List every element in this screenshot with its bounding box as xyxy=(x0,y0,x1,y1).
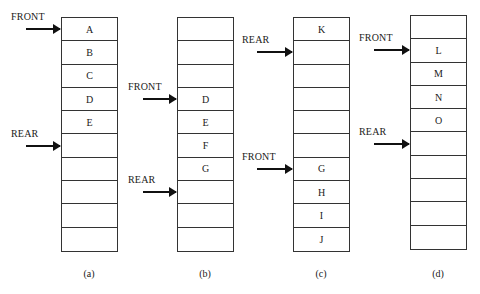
queue-cell: A xyxy=(62,18,117,41)
rear-arrow-icon xyxy=(257,51,292,53)
queue-cell xyxy=(178,228,233,251)
queue-caption: (d) xyxy=(418,268,458,279)
queue-cell: K xyxy=(294,18,349,41)
queue-cell: N xyxy=(411,86,466,109)
queue-cell xyxy=(178,65,233,88)
queue-cell xyxy=(62,181,117,204)
front-pointer-label: FRONT xyxy=(128,81,162,92)
queue-cell: C xyxy=(62,65,117,88)
front-arrow-icon xyxy=(374,49,409,51)
queue-cell xyxy=(411,156,466,179)
queue-cell xyxy=(411,179,466,202)
rear-pointer-label: REAR xyxy=(11,128,38,139)
queue-d: LMNO xyxy=(410,15,467,250)
queue-cell xyxy=(62,228,117,251)
front-arrow-icon xyxy=(257,168,292,170)
rear-pointer-label: REAR xyxy=(359,126,386,137)
queue-cell xyxy=(411,202,466,225)
queue-cell xyxy=(294,41,349,64)
front-pointer-label: FRONT xyxy=(359,32,393,43)
queue-cell xyxy=(294,111,349,134)
queue-cell xyxy=(178,181,233,204)
front-pointer-label: FRONT xyxy=(242,151,276,162)
rear-arrow-icon xyxy=(26,145,60,147)
queue-cell: I xyxy=(294,204,349,227)
queue-cell xyxy=(411,226,466,249)
queue-cell: E xyxy=(62,111,117,134)
rear-arrow-icon xyxy=(143,191,176,193)
queue-cell: J xyxy=(294,228,349,251)
queue-b: DEFG xyxy=(177,17,234,252)
queue-cell: G xyxy=(294,158,349,181)
queue-caption: (c) xyxy=(301,268,341,279)
queue-cell xyxy=(294,65,349,88)
queue-cell xyxy=(62,134,117,157)
queue-cell xyxy=(62,158,117,181)
queue-cell: D xyxy=(178,88,233,111)
queue-cell: O xyxy=(411,109,466,132)
queue-cell: B xyxy=(62,41,117,64)
queue-a: ABCDE xyxy=(61,17,118,252)
queue-cell xyxy=(294,88,349,111)
front-arrow-icon xyxy=(143,98,176,100)
queue-cell: M xyxy=(411,63,466,86)
queue-cell xyxy=(62,204,117,227)
queue-caption: (a) xyxy=(69,268,109,279)
queue-cell xyxy=(178,204,233,227)
queue-cell: D xyxy=(62,88,117,111)
queue-cell: G xyxy=(178,158,233,181)
queue-cell xyxy=(411,16,466,39)
queue-cell: F xyxy=(178,134,233,157)
queue-cell xyxy=(178,41,233,64)
rear-arrow-icon xyxy=(374,143,409,145)
queue-cell xyxy=(178,18,233,41)
queue-cell: L xyxy=(411,39,466,62)
queue-cell: H xyxy=(294,181,349,204)
queue-cell xyxy=(294,134,349,157)
rear-pointer-label: REAR xyxy=(242,34,269,45)
front-pointer-label: FRONT xyxy=(11,11,45,22)
queue-cell xyxy=(411,132,466,155)
front-arrow-icon xyxy=(26,28,60,30)
rear-pointer-label: REAR xyxy=(128,174,155,185)
queue-c: KGHIJ xyxy=(293,17,350,252)
queue-caption: (b) xyxy=(185,268,225,279)
queue-cell: E xyxy=(178,111,233,134)
